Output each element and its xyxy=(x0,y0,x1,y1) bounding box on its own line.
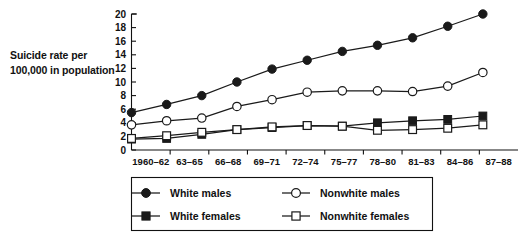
x-axis-tick-label: 75–77 xyxy=(331,156,357,167)
marker-open-circle xyxy=(338,87,346,95)
y-axis-tick-label: 4 xyxy=(120,117,126,128)
x-axis-tick-label: 78–80 xyxy=(370,156,396,167)
x-axis-tick-label: 87–88 xyxy=(485,156,511,167)
marker-filled-square xyxy=(479,112,487,120)
marker-open-square xyxy=(444,124,452,132)
y-axis-title-line-1: Suicide rate per xyxy=(10,48,118,63)
legend-item-white-females[interactable]: White females xyxy=(132,210,241,222)
legend-item-label: White males xyxy=(170,187,231,199)
y-axis-tick-label: 2 xyxy=(120,131,126,142)
series-line-nonwhite-males xyxy=(132,72,483,124)
marker-open-circle xyxy=(162,117,170,125)
marker-filled-circle xyxy=(408,34,416,42)
marker-open-circle xyxy=(479,68,487,76)
marker-filled-square xyxy=(409,117,417,125)
legend-item-label: White females xyxy=(170,210,241,222)
x-axis-tick-label: 66–68 xyxy=(215,156,241,167)
y-axis-tick-label: 18 xyxy=(115,22,127,33)
marker-open-square xyxy=(338,122,346,130)
x-axis-tick-marks xyxy=(170,150,479,155)
series-markers-nonwhite-females xyxy=(128,121,487,142)
marker-open-circle xyxy=(268,95,276,103)
marker-filled-circle xyxy=(444,22,452,30)
legend-item-nonwhite-males[interactable]: Nonwhite males xyxy=(282,187,400,199)
marker-filled-circle xyxy=(198,91,206,99)
marker-open-circle xyxy=(127,121,135,129)
y-axis-tick-labels: 02468101214161820 xyxy=(115,9,127,156)
marker-open-square xyxy=(268,123,276,131)
legend-item-nonwhite-females[interactable]: Nonwhite females xyxy=(282,210,409,222)
marker-open-square xyxy=(303,122,311,130)
marker-open-circle xyxy=(373,87,381,95)
marker-open-circle xyxy=(408,87,416,95)
x-axis-tick-label: 81–83 xyxy=(408,156,434,167)
legend-border xyxy=(132,178,433,231)
x-axis-tick-label: 69–71 xyxy=(254,156,281,167)
chart-canvas: 02468101214161820 1960–6263–6566–6869–71… xyxy=(0,0,532,240)
marker-filled-circle xyxy=(373,41,381,49)
marker-open-circle xyxy=(233,102,241,110)
marker-open-circle xyxy=(444,82,452,90)
x-axis-tick-labels: 1960–6263–6566–6869–7172–7475–7778–8081–… xyxy=(132,156,512,167)
x-axis-tick-label: 72–74 xyxy=(292,156,319,167)
y-axis-tick-label: 20 xyxy=(115,9,127,20)
marker-filled-square xyxy=(374,119,382,127)
y-axis-tick-label: 10 xyxy=(115,77,127,88)
legend-item-label: Nonwhite males xyxy=(320,187,400,199)
marker-open-square xyxy=(292,212,300,220)
marker-filled-circle xyxy=(303,56,311,64)
marker-filled-circle xyxy=(162,100,170,108)
marker-open-circle xyxy=(292,189,301,198)
legend: White malesNonwhite malesWhite femalesNo… xyxy=(132,187,409,222)
y-axis-tick-label: 6 xyxy=(120,104,126,115)
marker-open-square xyxy=(163,132,171,140)
series-markers-group xyxy=(127,10,487,143)
x-axis-tick-label: 1960–62 xyxy=(132,156,169,167)
marker-open-square xyxy=(233,126,241,134)
legend-item-white-males[interactable]: White males xyxy=(132,187,231,199)
marker-open-square xyxy=(198,128,206,136)
marker-filled-square xyxy=(142,212,150,220)
marker-filled-square xyxy=(444,116,452,124)
y-axis-tick-label: 8 xyxy=(120,90,126,101)
y-axis-title-line-2: 100,000 in population xyxy=(10,63,118,78)
marker-filled-circle xyxy=(233,78,241,86)
marker-filled-circle xyxy=(268,65,276,73)
x-axis-tick-label: 84–86 xyxy=(447,156,473,167)
legend-item-label: Nonwhite females xyxy=(320,210,409,222)
marker-open-square xyxy=(374,126,382,134)
marker-filled-circle xyxy=(479,10,487,18)
marker-open-square xyxy=(409,126,417,134)
marker-filled-circle xyxy=(338,47,346,55)
marker-filled-circle xyxy=(127,108,135,116)
marker-filled-circle xyxy=(142,189,151,198)
series-lines-group xyxy=(132,14,483,139)
y-axis-tick-marks xyxy=(132,14,137,150)
x-axis-tick-label: 63–65 xyxy=(176,156,203,167)
marker-open-square xyxy=(479,121,487,129)
marker-open-square xyxy=(128,135,136,143)
marker-open-circle xyxy=(303,88,311,96)
y-axis-tick-label: 16 xyxy=(115,36,127,47)
y-axis-title: Suicide rate per 100,000 in population xyxy=(10,48,118,78)
suicide-rate-line-chart: Suicide rate per 100,000 in population 0… xyxy=(0,0,532,240)
marker-open-circle xyxy=(198,114,206,122)
y-axis-tick-label: 0 xyxy=(120,145,126,156)
